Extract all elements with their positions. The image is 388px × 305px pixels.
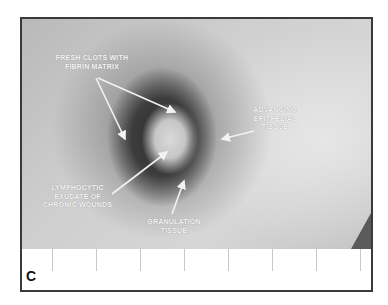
- ruler-tick: [52, 249, 53, 271]
- arrow-granulation: [172, 181, 184, 214]
- wound-photograph: FRESH CLOTS WITH FIBRIN MATRIX ADVANCING…: [22, 19, 371, 249]
- ruler-tick: [316, 249, 317, 271]
- panel-letter: C: [26, 268, 36, 284]
- ruler-tick: [184, 249, 185, 271]
- ruler-tick: [228, 249, 229, 271]
- figure-frame: FRESH CLOTS WITH FIBRIN MATRIX ADVANCING…: [20, 17, 373, 292]
- arrow-epithelial: [222, 131, 254, 139]
- measurement-ruler: C: [22, 249, 371, 290]
- ruler-tick: [272, 249, 273, 271]
- ruler-tick: [360, 249, 361, 271]
- annotation-arrows: [22, 19, 371, 249]
- ruler-tick: [140, 249, 141, 271]
- arrow-exudate: [112, 152, 167, 194]
- ruler-tick: [96, 249, 97, 271]
